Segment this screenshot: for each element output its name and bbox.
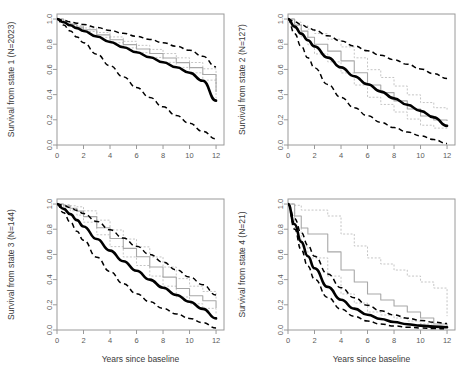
survival-curves-figure: 0.00.20.40.60.81.0024681012Survival from… — [0, 0, 462, 371]
x-tick-label: 6 — [134, 151, 138, 160]
y-tick-label: 0.6 — [276, 249, 285, 259]
x-tick-label: 12 — [212, 336, 220, 345]
y-axis-title: Survival from state 3 (N=144) — [6, 209, 16, 320]
y-tick-label: 0.8 — [276, 39, 285, 49]
x-tick-label: 6 — [365, 151, 369, 160]
x-tick-label: 8 — [392, 336, 396, 345]
x-tick-label: 4 — [339, 336, 343, 345]
y-tick-label: 1.0 — [276, 199, 285, 209]
x-tick-label: 8 — [161, 336, 165, 345]
y-tick-label: 0.0 — [45, 325, 54, 335]
x-tick-label: 12 — [212, 151, 220, 160]
y-tick-label: 1.0 — [45, 14, 54, 24]
y-tick-label: 0.0 — [45, 140, 54, 150]
x-tick-label: 0 — [286, 151, 290, 160]
kaplan-meier-ci-curve — [57, 204, 216, 315]
y-tick-label: 0.4 — [45, 274, 54, 284]
confidence-band-curve — [57, 19, 216, 67]
x-axis-title: Years since baseline — [102, 354, 180, 364]
x-tick-label: 6 — [365, 336, 369, 345]
y-tick-label: 0.2 — [276, 115, 285, 125]
y-tick-label: 0.0 — [276, 140, 285, 150]
x-tick-label: 12 — [443, 151, 451, 160]
x-tick-label: 12 — [443, 336, 451, 345]
y-tick-label: 0.4 — [45, 89, 54, 99]
x-tick-label: 0 — [286, 336, 290, 345]
confidence-band-curve — [57, 19, 216, 139]
y-tick-label: 0.4 — [276, 274, 285, 284]
x-tick-label: 8 — [161, 151, 165, 160]
y-tick-label: 0.8 — [276, 224, 285, 234]
panel-state-4: 0.00.20.40.60.81.0024681012Survival from… — [231, 185, 462, 371]
y-tick-label: 0.4 — [276, 89, 285, 99]
y-tick-label: 0.2 — [45, 300, 54, 310]
x-tick-label: 6 — [134, 336, 138, 345]
panel-state-2: 0.00.20.40.60.81.0024681012Survival from… — [231, 0, 462, 185]
x-axis-title: Years since baseline — [333, 354, 411, 364]
x-tick-label: 2 — [81, 151, 85, 160]
y-axis-title: Survival from state 1 (N=2023) — [6, 22, 16, 138]
y-axis-title: Survival from state 2 (N=127) — [237, 24, 247, 135]
y-tick-label: 0.6 — [45, 64, 54, 74]
x-tick-label: 4 — [108, 151, 112, 160]
x-tick-label: 10 — [185, 336, 193, 345]
y-tick-label: 0.2 — [276, 300, 285, 310]
y-tick-label: 0.0 — [276, 325, 285, 335]
x-tick-label: 8 — [392, 151, 396, 160]
x-tick-label: 0 — [55, 336, 59, 345]
panel-state-1: 0.00.20.40.60.81.0024681012Survival from… — [0, 0, 231, 185]
x-tick-label: 2 — [312, 151, 316, 160]
model-fit-curve — [288, 204, 447, 327]
y-tick-label: 0.6 — [45, 249, 54, 259]
model-fit-curve — [57, 204, 216, 318]
y-axis-title: Survival from state 4 (N=21) — [237, 211, 247, 317]
y-tick-label: 1.0 — [276, 14, 285, 24]
panel-state-3: 0.00.20.40.60.81.0024681012Survival from… — [0, 185, 231, 371]
y-tick-label: 0.8 — [45, 39, 54, 49]
x-tick-label: 10 — [416, 336, 424, 345]
x-tick-label: 10 — [185, 151, 193, 160]
y-tick-label: 1.0 — [45, 199, 54, 209]
model-fit-curve — [57, 19, 216, 101]
x-tick-label: 4 — [108, 336, 112, 345]
x-tick-label: 2 — [81, 336, 85, 345]
x-tick-label: 10 — [416, 151, 424, 160]
y-tick-label: 0.8 — [45, 224, 54, 234]
x-tick-label: 0 — [55, 151, 59, 160]
y-tick-label: 0.2 — [45, 115, 54, 125]
plot-frame — [57, 199, 224, 330]
x-tick-label: 2 — [312, 336, 316, 345]
x-tick-label: 4 — [339, 151, 343, 160]
y-tick-label: 0.6 — [276, 64, 285, 74]
kaplan-meier-curve — [57, 204, 216, 308]
